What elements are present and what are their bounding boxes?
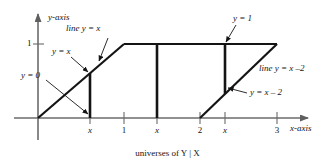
- figure-universes-of-y-given-x: y-axis x-axis 1 line y = x y = x y = 0 y…: [0, 0, 335, 166]
- annotation-y-equals-0: y = 0: [21, 71, 40, 80]
- y-tick-label-1: 1: [27, 39, 32, 48]
- annotation-y-equals-x: y = x: [52, 47, 71, 56]
- x-tick-label-3: 2: [190, 126, 210, 135]
- annotation-line-y-equals-x: line y = x: [66, 24, 100, 33]
- x-axis-label: x-axis: [290, 124, 312, 133]
- leader-y-equals-0-label: [46, 80, 88, 114]
- leader-y-equals-x-label: [71, 57, 88, 72]
- x-tick-label-4: x: [215, 126, 235, 135]
- line-y-equals-x-segment: [38, 44, 124, 118]
- axis-group: [14, 14, 308, 140]
- leader-y-equals-1-label: [226, 25, 236, 42]
- x-tick-label-2: x: [147, 126, 167, 135]
- line-y-equals-x-minus-2-segment: [200, 44, 277, 118]
- figure-canvas: [0, 0, 335, 166]
- x-tick-label-5: 3: [267, 126, 287, 135]
- x-tick-label-1: 1: [114, 126, 134, 135]
- leader-y-equals-x-minus-2-label: [228, 88, 247, 93]
- x-tick-label-0: x: [80, 126, 100, 135]
- annotation-y-equals-x-minus-2: y = x – 2: [250, 88, 282, 97]
- annotation-y-equals-1: y = 1: [233, 14, 252, 23]
- annotation-line-y-equals-x-minus-2: line y = x –2: [259, 64, 305, 73]
- figure-caption: universes of Y | X: [0, 149, 335, 158]
- y-axis-label: y-axis: [48, 13, 70, 22]
